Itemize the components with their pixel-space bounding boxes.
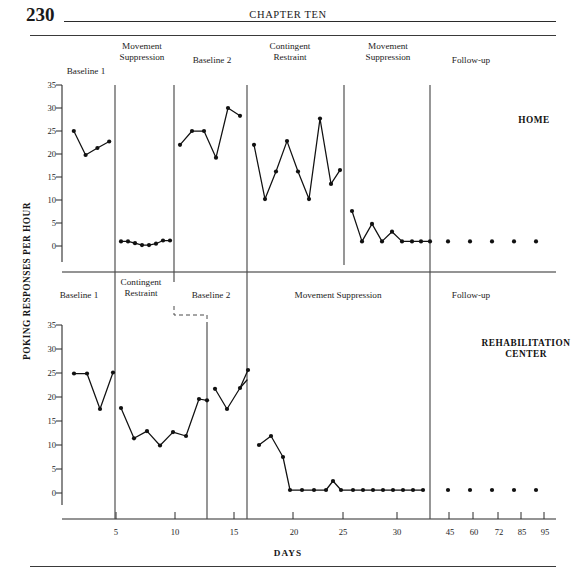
home-series-movement-suppression-2 <box>350 209 432 244</box>
figure-plot-area <box>0 0 576 582</box>
home-series-baseline-1 <box>72 129 112 157</box>
home-axes <box>56 85 556 272</box>
rehab-series-baseline-1 <box>72 370 115 411</box>
home-series-contingent-restraint <box>252 117 342 202</box>
rehab-series-baseline-2b <box>240 368 250 388</box>
rehab-phase-divider-stubs <box>115 265 430 282</box>
home-phase-dividers <box>115 85 430 265</box>
rehab-series-follow-up <box>446 488 538 492</box>
home-series-movement-suppression-1 <box>119 238 172 247</box>
home-series-baseline-2 <box>178 106 242 160</box>
x-axis-ticks <box>116 512 544 519</box>
figure-page: 230 CHAPTER TEN Baseline 1 Movement Supp… <box>0 0 576 582</box>
rehab-series-movement-suppression <box>257 434 425 492</box>
rehab-phase-dividers <box>115 282 430 519</box>
rehab-series-contingent-restraint <box>119 397 209 448</box>
home-series-follow-up <box>446 239 538 243</box>
